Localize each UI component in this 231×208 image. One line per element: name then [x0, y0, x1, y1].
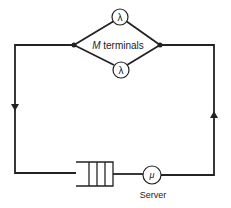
- right-loop-line: [160, 45, 214, 175]
- queueing-diagram: λ λ M terminals μ Server: [0, 0, 231, 208]
- right-junction-node: [158, 43, 163, 48]
- svg-text:λ: λ: [119, 65, 124, 76]
- terminal-bottom: λ: [113, 62, 129, 78]
- terminal-top: λ: [112, 9, 128, 25]
- down-arrow-icon: [11, 104, 19, 111]
- svg-text:λ: λ: [118, 12, 123, 23]
- queue-buffer: [76, 162, 113, 186]
- up-arrow-icon: [210, 111, 218, 118]
- left-junction-node: [72, 43, 77, 48]
- left-loop-line: [15, 45, 76, 173]
- server-node: μ: [143, 166, 161, 184]
- server-label: Server: [140, 190, 167, 200]
- svg-text:μ: μ: [149, 170, 155, 180]
- terminals-label: M terminals: [92, 40, 144, 51]
